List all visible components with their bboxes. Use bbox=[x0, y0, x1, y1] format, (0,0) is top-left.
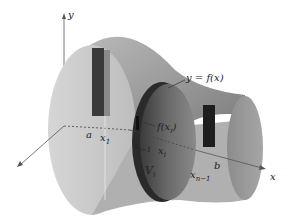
slab-near-b bbox=[203, 105, 215, 147]
x-axis-label: x bbox=[270, 172, 276, 182]
slab-near-x1 bbox=[92, 48, 104, 116]
label-a: a bbox=[86, 130, 92, 140]
label-x-i: xi bbox=[158, 146, 166, 159]
label-x1: x1 bbox=[100, 133, 110, 146]
slab-near-xi bbox=[136, 116, 139, 130]
diagram-graphic bbox=[0, 0, 288, 221]
radius-label: f(xi) bbox=[157, 122, 176, 135]
slab-volume-label: Vi bbox=[145, 165, 155, 179]
solid-of-revolution-diagram: y x y = f(x) f(xi) a x1 xi−1 xi xn−1 b V… bbox=[0, 0, 288, 221]
right-end-face bbox=[227, 96, 263, 200]
label-x-i-minus-1: xi−1 bbox=[133, 141, 151, 154]
curve-label: y = f(x) bbox=[186, 73, 224, 83]
label-b: b bbox=[214, 161, 220, 171]
y-axis-label: y bbox=[68, 10, 74, 20]
label-x-n-minus-1: xn−1 bbox=[190, 170, 210, 183]
